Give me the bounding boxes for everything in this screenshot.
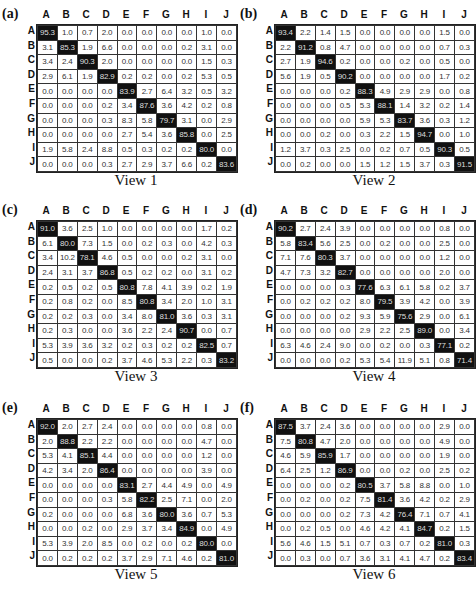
column-header: C bbox=[76, 403, 96, 417]
matrix-cell: 4.9 bbox=[217, 478, 237, 493]
row-header: C bbox=[24, 53, 36, 68]
diagonal-cell: 77.6 bbox=[355, 280, 375, 295]
matrix-cell: 5.4 bbox=[375, 353, 395, 368]
matrix-cell: 3.4 bbox=[117, 309, 137, 324]
matrix-cell: 3.4 bbox=[38, 55, 58, 70]
diagonal-cell: 94.7 bbox=[415, 128, 435, 143]
matrix-cell: 0.7 bbox=[435, 40, 455, 55]
matrix-cell: 0.3 bbox=[455, 40, 475, 55]
row-header: H bbox=[24, 126, 36, 141]
matrix-cell: 0.0 bbox=[395, 420, 415, 435]
matrix-cell: 4.7 bbox=[315, 434, 335, 449]
column-header: I bbox=[434, 9, 454, 23]
matrix-cell: 0.2 bbox=[435, 492, 455, 507]
column-header: H bbox=[414, 403, 434, 417]
matrix-cell: 0.0 bbox=[276, 551, 296, 566]
matrix-row: 0.20.20.30.03.48.081.03.60.33.1 bbox=[38, 309, 237, 324]
column-header: A bbox=[36, 403, 56, 417]
matrix-cell: 0.0 bbox=[77, 507, 97, 522]
matrix-cell: 0.2 bbox=[335, 478, 355, 493]
matrix-cell: 2.0 bbox=[335, 434, 355, 449]
matrix-cell: 0.0 bbox=[77, 113, 97, 128]
matrix-cell: 7.1 bbox=[415, 507, 435, 522]
row-header: F bbox=[24, 293, 36, 308]
column-header: G bbox=[394, 9, 414, 23]
matrix-cell: 0.0 bbox=[395, 251, 415, 266]
row-header: H bbox=[262, 520, 274, 535]
matrix-row: 0.00.00.20.00.32.21.594.70.01.0 bbox=[276, 128, 475, 143]
matrix-cell: 6.8 bbox=[117, 507, 137, 522]
view-caption: View 6 bbox=[274, 566, 474, 583]
matrix-cell: 0.0 bbox=[217, 26, 237, 41]
matrix-grid: 91.03.62.51.00.00.00.00.01.70.26.180.07.… bbox=[36, 220, 238, 369]
matrix-cell: 2.5 bbox=[77, 222, 97, 237]
matrix-cell: 0.2 bbox=[137, 236, 157, 251]
matrix-row: 0.00.00.00.083.12.74.44.90.04.9 bbox=[38, 478, 237, 493]
matrix-cell: 0.2 bbox=[455, 338, 475, 353]
matrix-cell: 0.0 bbox=[335, 157, 355, 172]
diagonal-cell: 94.6 bbox=[315, 55, 335, 70]
matrix-panel-6: (f)ABCDEFGHIJABCDEFGHIJ87.53.72.43.60.00… bbox=[238, 394, 474, 589]
matrix-cell: 0.2 bbox=[177, 69, 197, 84]
matrix-cell: 0.8 bbox=[455, 84, 475, 99]
matrix-cell: 0.2 bbox=[197, 98, 217, 113]
row-header: E bbox=[262, 82, 274, 97]
matrix-cell: 3.6 bbox=[57, 222, 77, 237]
matrix-cell: 0.2 bbox=[375, 236, 395, 251]
matrix-cell: 2.4 bbox=[38, 265, 58, 280]
column-header: D bbox=[96, 205, 116, 219]
matrix-cell: 0.2 bbox=[137, 265, 157, 280]
matrix-cell: 0.0 bbox=[157, 463, 177, 478]
matrix-cell: 0.0 bbox=[217, 449, 237, 464]
matrix-cell: 2.4 bbox=[57, 55, 77, 70]
column-header: F bbox=[136, 205, 156, 219]
matrix-cell: 0.0 bbox=[315, 98, 335, 113]
matrix-cell: 0.3 bbox=[197, 309, 217, 324]
matrix-cell: 4.1 bbox=[395, 551, 415, 566]
matrix-cell: 0.2 bbox=[335, 84, 355, 99]
matrix-cell: 0.5 bbox=[38, 353, 58, 368]
matrix-cell: 4.9 bbox=[435, 434, 455, 449]
matrix-cell: 1.2 bbox=[315, 463, 335, 478]
matrix-cell: 0.3 bbox=[97, 113, 117, 128]
row-header: A bbox=[24, 24, 36, 39]
matrix-cell: 0.8 bbox=[435, 222, 455, 237]
matrix-row: 2.088.82.22.20.00.00.00.04.70.0 bbox=[38, 434, 237, 449]
matrix-cell: 0.0 bbox=[276, 492, 296, 507]
matrix-cell: 3.6 bbox=[137, 507, 157, 522]
matrix-cell: 0.2 bbox=[295, 294, 315, 309]
matrix-cell: 5.3 bbox=[157, 353, 177, 368]
matrix-cell: 0.0 bbox=[57, 98, 77, 113]
matrix-cell: 3.6 bbox=[177, 507, 197, 522]
matrix-cell: 4.6 bbox=[177, 551, 197, 566]
matrix-cell: 0.0 bbox=[177, 55, 197, 70]
matrix-cell: 0.0 bbox=[117, 420, 137, 435]
matrix-cell: 0.2 bbox=[335, 492, 355, 507]
matrix-panel-3: (c)ABCDEFGHIJABCDEFGHIJ91.03.62.51.00.00… bbox=[0, 196, 236, 391]
column-header: G bbox=[156, 205, 176, 219]
matrix-cell: 0.0 bbox=[117, 449, 137, 464]
matrix-cell: 3.7 bbox=[157, 157, 177, 172]
matrix-cell: 3.6 bbox=[415, 113, 435, 128]
matrix-cell: 0.0 bbox=[355, 69, 375, 84]
matrix-cell: 0.0 bbox=[355, 463, 375, 478]
matrix-row: 93.42.21.41.50.00.00.00.01.50.0 bbox=[276, 26, 475, 41]
matrix-cell: 0.5 bbox=[415, 142, 435, 157]
matrix-cell: 2.0 bbox=[177, 294, 197, 309]
matrix-cell: 0.0 bbox=[276, 84, 296, 99]
matrix-cell: 4.2 bbox=[415, 492, 435, 507]
matrix-row: 0.00.00.00.38.35.879.73.10.02.9 bbox=[38, 113, 237, 128]
matrix-row: 0.00.00.00.29.35.975.62.90.06.1 bbox=[276, 309, 475, 324]
row-header: A bbox=[262, 220, 274, 235]
matrix-cell: 0.0 bbox=[77, 84, 97, 99]
matrix-panel-2: (b)ABCDEFGHIJABCDEFGHIJ93.42.21.41.50.00… bbox=[238, 0, 474, 195]
matrix-cell: 4.6 bbox=[276, 449, 296, 464]
matrix-cell: 0.8 bbox=[197, 420, 217, 435]
matrix-cell: 0.2 bbox=[455, 69, 475, 84]
matrix-row: 3.42.490.32.00.00.00.00.01.50.3 bbox=[38, 55, 237, 70]
diagonal-cell: 80.8 bbox=[295, 434, 315, 449]
diagonal-cell: 75.6 bbox=[395, 309, 415, 324]
matrix-cell: 3.1 bbox=[57, 265, 77, 280]
diagonal-cell: 76.4 bbox=[395, 507, 415, 522]
matrix-cell: 0.0 bbox=[157, 434, 177, 449]
